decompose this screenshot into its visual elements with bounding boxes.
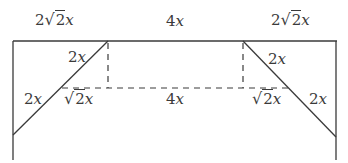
label-right-diagonal-upper: 2x: [268, 52, 286, 67]
label-right-diagonal-outer: 2x: [309, 92, 327, 107]
label-top-middle: 4x: [166, 14, 184, 29]
label-top-left: 2√2x: [35, 12, 74, 28]
label-left-diagonal-upper: 2x: [68, 50, 86, 65]
label-left-dashed-segment: √2x: [64, 91, 93, 107]
label-right-dashed-segment: √2x: [252, 91, 281, 107]
left-diagonal: [13, 41, 108, 135]
label-middle-dashed: 4x: [166, 92, 184, 107]
label-top-right: 2√2x: [271, 12, 310, 28]
label-left-diagonal-outer: 2x: [24, 92, 42, 107]
